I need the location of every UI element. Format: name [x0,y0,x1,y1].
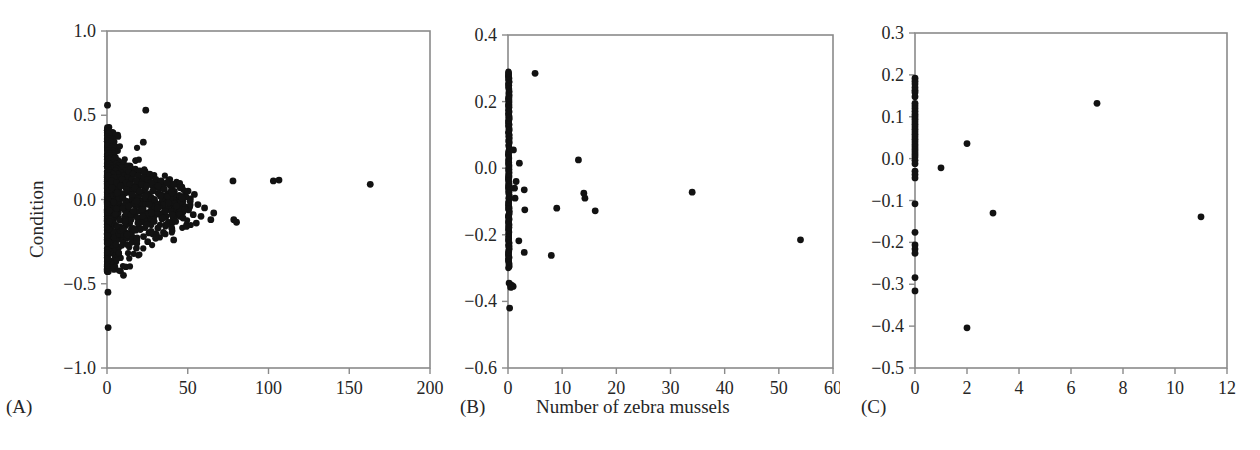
x-tick-label: 40 [716,378,734,398]
scatter-point [233,219,240,226]
scatter-point [505,69,511,75]
scatter-point [912,93,919,100]
scatter-point [521,206,528,213]
x-tick-label: 10 [553,378,571,398]
data-points [505,69,804,312]
scatter-point [144,238,151,245]
scatter-point [119,226,125,232]
scatter-point [912,288,919,295]
scatter-point [592,207,599,214]
scatter-point [131,251,137,257]
scatter-point [104,200,110,206]
scatter-point [207,216,214,223]
scatter-point [105,324,112,331]
y-tick-label: 0.1 [882,107,905,127]
scatter-point [162,173,168,179]
scatter-point [185,188,192,195]
scatter-point [125,250,131,256]
scatter-point [183,223,190,230]
y-tick-label: −0.5 [871,358,904,378]
scatter-point [104,256,110,262]
scatter-point [170,237,177,244]
scatter-point [134,145,140,151]
scatter-point [120,205,126,211]
scatter-point [912,160,919,167]
scatter-point [180,215,187,222]
scatter-point [990,210,997,217]
scatter-point [133,198,140,205]
scatter-point [1198,213,1205,220]
scatter-point [193,220,200,227]
scatter-point [124,242,130,248]
scatter-point [119,242,125,248]
scatter-point [160,230,167,237]
scatter-point [797,236,804,243]
plot-frame [915,33,1227,368]
scatter-point [148,210,155,217]
scatter-point [104,263,110,269]
scatter-point [116,250,122,256]
x-tick-label: 12 [1218,378,1236,398]
panel-b: 0102030405060−0.6−0.4−0.20.00.20.4 (B) N… [440,0,840,450]
x-tick-label: 20 [607,378,625,398]
x-tick-label: 50 [179,378,197,398]
scatter-point [190,211,197,218]
scatter-point [912,200,919,207]
scatter-point [129,191,136,198]
y-tick-label: −0.4 [464,291,497,311]
scatter-point [575,156,582,163]
scatter-point [146,201,153,208]
y-tick-label: 0.2 [475,92,498,112]
scatter-point [149,188,156,195]
panel-c-plot: 024681012−0.5−0.4−0.3−0.2−0.10.00.10.20.… [845,0,1260,450]
scatter-point [159,215,166,222]
scatter-point [689,189,696,196]
x-tick-label: 10 [1166,378,1184,398]
panel-label-b: (B) [460,396,485,418]
x-tick-label: 6 [1067,378,1076,398]
x-tick-label: 2 [963,378,972,398]
scatter-point [112,211,118,217]
scatter-point [507,284,514,291]
scatter-point [154,205,161,212]
scatter-point [532,70,539,77]
scatter-point [195,201,202,208]
scatter-point [155,183,162,190]
scatter-point [506,305,513,312]
x-tick-label: 30 [662,378,680,398]
scatter-point [367,181,374,188]
panel-b-plot: 0102030405060−0.6−0.4−0.20.00.20.4 [440,0,840,450]
scatter-point [109,184,116,191]
x-tick-label: 150 [336,378,363,398]
scatter-point [912,250,919,257]
x-tick-label: 0 [911,378,920,398]
scatter-point [276,177,283,184]
scatter-point [521,186,528,193]
y-tick-label: −0.6 [464,358,497,378]
scatter-point [516,160,523,167]
scatter-point [165,199,172,206]
scatter-point [162,221,169,228]
scatter-point [126,255,132,261]
y-tick-label: 0.4 [475,25,498,45]
scatter-point [142,193,149,200]
data-points [912,75,1205,331]
scatter-point [181,206,188,213]
scatter-point [148,228,155,235]
y-tick-label: −0.4 [871,316,904,336]
scatter-point [130,208,137,215]
scatter-point [142,107,149,114]
x-tick-label: 4 [1015,378,1024,398]
scatter-point [111,199,117,205]
scatter-point [125,203,132,210]
x-tick-label: 60 [824,378,840,398]
scatter-point [136,157,142,163]
y-tick-label: 0.0 [74,190,97,210]
scatter-point [157,193,164,200]
scatter-point [133,245,139,251]
scatter-point [133,237,140,244]
scatter-point [582,195,589,202]
scatter-point [113,257,119,263]
scatter-point [114,206,120,212]
scatter-point [140,139,147,146]
